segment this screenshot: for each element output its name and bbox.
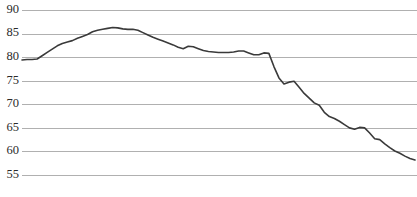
y-tick-label-55: 55 <box>7 167 20 181</box>
y-tick-label-70: 70 <box>7 96 20 110</box>
y-tick-label-90: 90 <box>7 2 20 16</box>
y-tick-label-75: 75 <box>7 73 20 87</box>
y-tick-label-85: 85 <box>7 25 20 39</box>
gridlines <box>22 11 417 176</box>
chart-plot-area: 9085807570656055 <box>0 0 417 197</box>
data-series-line <box>22 27 415 159</box>
y-tick-label-60: 60 <box>7 143 20 157</box>
y-tick-label-65: 65 <box>7 120 20 134</box>
line-chart: 9085807570656055 <box>0 0 417 197</box>
y-axis-tick-labels: 9085807570656055 <box>7 2 20 181</box>
y-tick-label-80: 80 <box>7 49 20 63</box>
